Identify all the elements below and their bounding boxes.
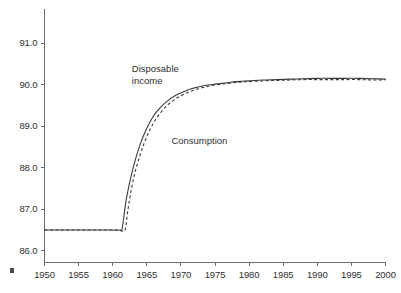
y-axis-tick-label: 86.0	[0, 245, 38, 256]
y-axis-tick-label: 88.0	[0, 162, 38, 173]
chart-series	[45, 78, 386, 231]
x-axis-tick-label: 2000	[366, 269, 401, 280]
corner-artifact-mark	[10, 268, 14, 273]
y-axis-tick-label: 91.0	[0, 37, 38, 48]
series-line-disposable-income	[45, 78, 386, 231]
series-line-consumption	[45, 80, 386, 232]
y-axis-tick-label: 87.0	[0, 203, 38, 214]
y-axis-tick-label: 90.0	[0, 79, 38, 90]
disposable-income-label: Disposable income	[132, 63, 179, 86]
consumption-label: Consumption	[171, 135, 227, 147]
y-axis-tick-label: 89.0	[0, 120, 38, 131]
